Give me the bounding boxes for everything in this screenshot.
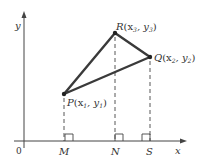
y-axis-label: y [14, 20, 21, 31]
x-axis [14, 139, 187, 144]
point-Q-label: Q(x2, y2) [154, 52, 195, 64]
point-P-label: P(x1, y1) [66, 97, 107, 109]
y-axis [22, 11, 27, 148]
x-axis-label: x [175, 145, 181, 156]
foot-label-S: S [146, 146, 153, 157]
right-angle-markers [65, 134, 150, 141]
foot-label-M: M [58, 146, 70, 157]
vertex-Q-dot [148, 55, 152, 59]
right-angle-icon-N [115, 134, 123, 141]
origin-label: 0 [16, 146, 22, 156]
x-axis-arrow-icon [180, 139, 187, 144]
triangle-PQR [64, 33, 150, 94]
foot-label-N: N [110, 146, 121, 157]
right-angle-icon-M [65, 134, 73, 141]
point-R-label: R(x3, y3) [115, 21, 157, 33]
y-axis-arrow-icon [22, 11, 27, 18]
right-angle-icon-S [142, 134, 150, 141]
coordinate-triangle-diagram: y x 0 P(x1, y1) R(x3, y3) Q(x2, y2) M N … [0, 0, 200, 162]
vertex-P-dot [62, 92, 66, 96]
